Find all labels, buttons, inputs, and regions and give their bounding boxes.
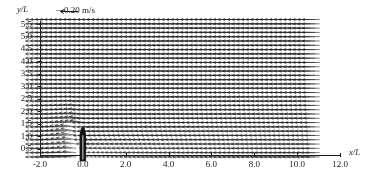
y-tick-label: 4.0 — [8, 57, 32, 66]
y-tick-label: 3.5 — [8, 69, 32, 78]
y-tick-label: 2.0 — [8, 107, 32, 116]
scale-arrow-icon: — — [56, 5, 64, 14]
y-tick-label: 0.5 — [8, 144, 32, 153]
y-tick-label: 5.5 — [8, 20, 32, 29]
scale-reference-legend: —0.20 m/s — [56, 5, 95, 15]
x-tick-label: 10.0 — [281, 160, 313, 169]
y-tick-label: 1.0 — [8, 132, 32, 141]
velocity-vector-field-figure: y/L x/L —0.20 m/s 0.51.01.52.02.53.03.54… — [0, 0, 373, 172]
scale-legend-text: 0.20 m/s — [64, 5, 95, 15]
vector-field-plot-canvas — [0, 0, 373, 172]
y-tick-label: 2.5 — [8, 94, 32, 103]
x-tick-label: -2.0 — [24, 160, 56, 169]
x-tick-label: 8.0 — [238, 160, 270, 169]
x-tick-label: 6.0 — [195, 160, 227, 169]
y-tick-label: 5.0 — [8, 32, 32, 41]
y-axis-label: y/L — [17, 5, 28, 14]
x-axis-label: x/L — [349, 148, 360, 157]
y-tick-label: 3.0 — [8, 82, 32, 91]
x-tick-label: 12.0 — [324, 160, 356, 169]
x-tick-label: 4.0 — [153, 160, 185, 169]
y-tick-label: 4.5 — [8, 44, 32, 53]
x-tick-label: 0.0 — [67, 160, 99, 169]
x-tick-label: 2.0 — [110, 160, 142, 169]
y-tick-label: 1.5 — [8, 119, 32, 128]
